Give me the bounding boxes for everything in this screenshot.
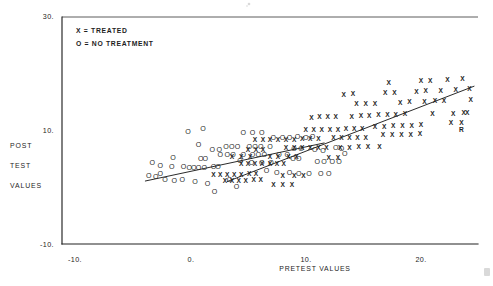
x-tick-label-10: 10.: [300, 255, 311, 264]
svg-text:R: R: [459, 126, 464, 133]
legend-entry-treated: X = TREATED: [76, 27, 128, 34]
svg-text:X: X: [382, 123, 387, 130]
svg-text:X: X: [393, 111, 398, 118]
svg-text:X: X: [433, 97, 438, 104]
svg-text:O: O: [169, 163, 175, 171]
svg-text:X: X: [294, 153, 299, 160]
y-tick-label-10: 10.: [43, 126, 54, 135]
svg-text:X: X: [239, 153, 244, 160]
svg-text:O: O: [179, 176, 185, 184]
svg-text:X: X: [325, 113, 330, 120]
svg-text:X: X: [260, 160, 265, 167]
svg-text:X: X: [317, 113, 322, 120]
svg-text:O: O: [162, 176, 168, 184]
svg-text:O: O: [216, 146, 222, 154]
svg-text:X: X: [373, 100, 378, 107]
svg-text:X: X: [352, 125, 357, 132]
svg-text:O: O: [314, 158, 320, 166]
svg-text:X: X: [282, 160, 287, 167]
y-tick-label-neg10: -10.: [40, 240, 54, 249]
svg-text:O: O: [235, 143, 241, 151]
svg-text:X: X: [338, 144, 343, 151]
svg-text:X: X: [268, 160, 273, 167]
svg-text:X: X: [419, 121, 424, 128]
svg-text:X: X: [308, 144, 313, 151]
svg-text:X: X: [419, 77, 424, 84]
svg-text:X: X: [414, 88, 419, 95]
svg-text:X: X: [430, 110, 435, 117]
svg-text:X: X: [428, 77, 433, 84]
svg-text:X: X: [453, 86, 458, 93]
svg-text:X: X: [327, 154, 332, 161]
svg-text:X: X: [223, 177, 228, 184]
svg-text:X: X: [252, 176, 257, 183]
svg-text:X: X: [385, 111, 390, 118]
svg-text:X: X: [268, 136, 273, 143]
svg-text:X: X: [211, 171, 216, 178]
svg-text:X: X: [422, 98, 427, 105]
svg-text:X: X: [387, 79, 392, 86]
svg-text:X: X: [275, 160, 280, 167]
svg-text:O: O: [150, 159, 156, 167]
svg-text:X: X: [230, 153, 235, 160]
svg-text:O: O: [185, 128, 191, 136]
svg-text:X: X: [391, 122, 396, 129]
svg-text:O: O: [170, 154, 176, 162]
svg-text:X: X: [301, 172, 306, 179]
svg-text:X: X: [276, 136, 281, 143]
svg-text:X: X: [300, 135, 305, 142]
svg-text:X: X: [261, 146, 266, 153]
svg-text:X: X: [351, 90, 356, 97]
svg-text:O: O: [212, 188, 218, 196]
x-tick-label-0: 0.: [188, 255, 195, 264]
svg-text:X: X: [347, 134, 352, 141]
svg-text:X: X: [239, 160, 244, 167]
plot-canvas: OOOOOOOOOOOOOOOOOOOOOOOOOOOOOOOOOOOOOOOO…: [0, 0, 493, 286]
svg-text:X: X: [316, 135, 321, 142]
svg-text:X: X: [403, 110, 408, 117]
svg-text:X: X: [328, 126, 333, 133]
svg-text:X: X: [347, 144, 352, 151]
svg-text:X: X: [390, 131, 395, 138]
svg-text:X: X: [363, 100, 368, 107]
svg-text:X: X: [467, 85, 472, 92]
svg-text:X: X: [246, 146, 251, 153]
svg-text:X: X: [342, 91, 347, 98]
svg-text:X: X: [410, 122, 415, 129]
svg-text:X: X: [400, 122, 405, 129]
svg-text:X: X: [286, 153, 291, 160]
svg-text:X: X: [336, 154, 341, 161]
svg-text:X: X: [423, 87, 428, 94]
svg-text:X: X: [355, 134, 360, 141]
svg-text:X: X: [354, 100, 359, 107]
svg-text:X: X: [284, 144, 289, 151]
svg-text:O: O: [267, 143, 273, 151]
svg-text:X: X: [392, 89, 397, 96]
svg-text:X: X: [243, 177, 248, 184]
svg-text:X: X: [268, 153, 273, 160]
svg-text:X: X: [451, 110, 456, 117]
svg-text:O: O: [196, 141, 202, 149]
legend-entry-no-treatment: O = NO TREATMENT: [76, 40, 154, 47]
svg-text:X: X: [360, 125, 365, 132]
svg-text:X: X: [253, 160, 258, 167]
svg-text:X: X: [253, 136, 258, 143]
svg-text:X: X: [350, 113, 355, 120]
data-marker-extra: R: [459, 126, 464, 133]
scatter-plot-figure: OOOOOOOOOOOOOOOOOOOOOOOOOOOOOOOOOOOOOOOO…: [0, 0, 493, 286]
svg-text:X: X: [280, 181, 285, 188]
svg-text:X: X: [246, 160, 251, 167]
svg-text:O: O: [209, 146, 215, 154]
svg-text:X: X: [445, 76, 450, 83]
svg-text:O: O: [241, 129, 247, 137]
svg-text:O: O: [200, 125, 206, 133]
svg-text:X: X: [366, 143, 371, 150]
svg-text:X: X: [398, 99, 403, 106]
svg-text:X: X: [309, 114, 314, 121]
y-axis-title-line-2: TEST: [10, 162, 31, 169]
svg-text:X: X: [254, 146, 259, 153]
svg-text:X: X: [336, 126, 341, 133]
svg-text:O: O: [306, 170, 312, 178]
svg-text:X: X: [230, 177, 235, 184]
x-tick-label-neg10: -10.: [68, 255, 82, 264]
